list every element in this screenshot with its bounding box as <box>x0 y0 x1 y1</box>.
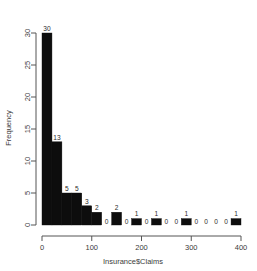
bar-value-label: 0 <box>165 218 169 225</box>
bar-value-label: 1 <box>135 210 139 217</box>
bar-value-label: 0 <box>174 218 178 225</box>
histogram-bar <box>181 219 191 225</box>
bar-value-label: 0 <box>204 218 208 225</box>
bar-value-label: 0 <box>224 218 228 225</box>
y-tick-label: 30 <box>23 29 32 37</box>
chart-canvas: 051015202530 0100200300400 Frequency Ins… <box>0 0 257 271</box>
histogram-bar <box>82 206 92 225</box>
x-tick-label: 200 <box>135 243 148 252</box>
bar-value-label: 0 <box>194 218 198 225</box>
x-axis-title: Insurance$Claims <box>103 257 163 266</box>
bar-value-label: 0 <box>145 218 149 225</box>
bar-value-label: 30 <box>43 25 51 32</box>
y-tick-label: 0 <box>23 223 32 227</box>
bars-series <box>42 33 241 225</box>
bar-value-label: 3 <box>85 198 89 205</box>
x-axis: 0100200300400 <box>40 236 247 252</box>
x-tick-label: 0 <box>40 243 44 252</box>
bar-value-label: 1 <box>155 210 159 217</box>
y-tick-label: 20 <box>23 93 32 101</box>
histogram-bar <box>92 212 102 225</box>
y-tick-label: 10 <box>23 157 32 165</box>
bar-value-label: 2 <box>115 204 119 211</box>
x-tick-label: 100 <box>85 243 98 252</box>
y-axis-title: Frequency <box>4 110 13 146</box>
histogram-bar <box>62 193 72 225</box>
y-tick-label: 25 <box>23 61 32 69</box>
bar-value-label: 0 <box>105 218 109 225</box>
bar-value-label: 1 <box>234 210 238 217</box>
bar-value-label: 0 <box>125 218 129 225</box>
x-tick-label: 400 <box>235 243 248 252</box>
y-axis: 051015202530 <box>23 29 37 227</box>
x-tick-label: 300 <box>185 243 198 252</box>
histogram-bar <box>42 33 52 225</box>
histogram-bar <box>132 219 142 225</box>
bar-value-label: 5 <box>65 185 69 192</box>
histogram-bar <box>151 219 161 225</box>
histogram-bar <box>52 142 62 225</box>
bar-value-label: 0 <box>214 218 218 225</box>
histogram-plot: 051015202530 0100200300400 Frequency Ins… <box>0 0 257 271</box>
y-tick-label: 5 <box>23 191 32 195</box>
histogram-bar <box>231 219 241 225</box>
bar-value-label: 2 <box>95 204 99 211</box>
bar-value-label: 13 <box>53 134 61 141</box>
y-tick-label: 15 <box>23 125 32 133</box>
bar-value-label: 5 <box>75 185 79 192</box>
histogram-bar <box>72 193 82 225</box>
bar-value-label: 1 <box>184 210 188 217</box>
histogram-bar <box>112 212 122 225</box>
